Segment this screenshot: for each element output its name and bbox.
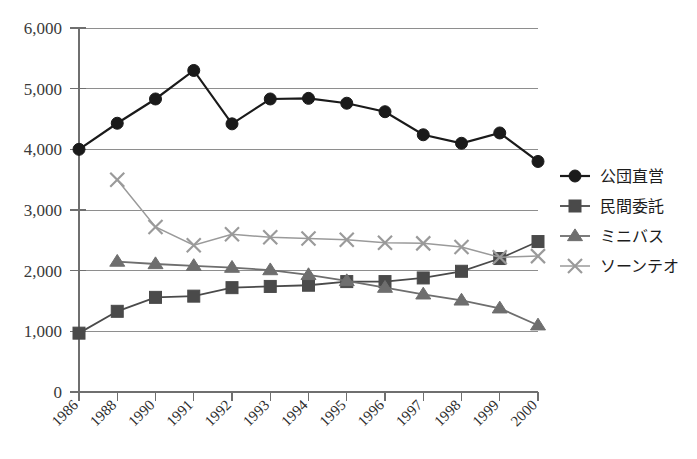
data-point-triangle-marker xyxy=(263,263,278,275)
y-axis-tick-label: 4,000 xyxy=(24,140,62,159)
data-point-triangle-marker xyxy=(148,257,163,269)
series-2 xyxy=(73,236,544,340)
data-point-square-marker xyxy=(111,305,123,317)
data-point-triangle-marker xyxy=(186,259,201,271)
data-point-circle-marker xyxy=(264,93,276,105)
data-point-circle-marker xyxy=(303,92,315,104)
data-point-circle-marker xyxy=(456,137,468,149)
data-point-circle-marker xyxy=(494,127,506,139)
data-point-square-marker xyxy=(569,200,581,212)
data-point-square-marker xyxy=(188,290,200,302)
data-point-circle-marker xyxy=(226,118,238,130)
legend-label: 民間委託 xyxy=(600,197,664,216)
line-chart: 01,0002,0003,0004,0005,0006,000 19861988… xyxy=(0,0,697,459)
x-axis-tick-label: 1990 xyxy=(125,397,158,430)
legend-label: 公団直営 xyxy=(600,167,664,186)
data-point-triangle-marker xyxy=(225,261,240,273)
legend-label: ソーンテオ xyxy=(600,257,679,276)
data-point-square-marker xyxy=(303,279,315,291)
data-point-circle-marker xyxy=(73,143,85,155)
data-point-square-marker xyxy=(532,236,544,248)
data-point-circle-marker xyxy=(150,93,162,105)
x-axis-tick-label: 1995 xyxy=(316,397,349,430)
y-axis-tick-label: 6,000 xyxy=(24,19,62,38)
data-point-triangle-marker xyxy=(568,229,583,241)
legend-item-4[interactable]: ソーンテオ xyxy=(560,257,679,276)
x-axis-tick-label: 1999 xyxy=(469,397,502,430)
legend-item-3[interactable]: ミニバス xyxy=(560,227,664,246)
series-1 xyxy=(73,64,544,167)
x-axis-labels-group: 1986198819901991199219931994199519961997… xyxy=(49,396,541,429)
x-axis-tick-label: 2000 xyxy=(508,397,541,430)
legend-item-1[interactable]: 公団直営 xyxy=(560,167,664,186)
y-axis-tick-label: 0 xyxy=(54,383,63,402)
series-line xyxy=(117,180,538,258)
data-point-x-marker xyxy=(149,220,163,234)
y-axis-tick-label: 3,000 xyxy=(24,201,62,220)
data-point-triangle-marker xyxy=(110,254,125,266)
x-axis-tick-label: 1996 xyxy=(355,396,388,429)
data-point-square-marker xyxy=(264,280,276,292)
x-axis-tick-label: 1993 xyxy=(240,397,273,430)
data-point-x-marker xyxy=(110,173,124,187)
data-point-square-marker xyxy=(417,272,429,284)
x-axis-tick-label: 1992 xyxy=(202,397,235,430)
x-axis-tick-label: 1997 xyxy=(393,396,426,429)
chart-legend: 公団直営民間委託ミニバスソーンテオ xyxy=(560,167,679,276)
data-point-circle-marker xyxy=(341,97,353,109)
data-point-square-marker xyxy=(226,282,238,294)
data-series-group xyxy=(73,64,546,339)
series-line xyxy=(79,70,538,161)
data-point-circle-marker xyxy=(569,170,581,182)
data-point-circle-marker xyxy=(379,106,391,118)
x-axis-tick-label: 1998 xyxy=(431,397,464,430)
legend-label: ミニバス xyxy=(600,227,664,246)
data-point-square-marker xyxy=(456,265,468,277)
y-axis-labels-group: 01,0002,0003,0004,0005,0006,000 xyxy=(24,19,62,402)
data-point-circle-marker xyxy=(188,64,200,76)
x-axis-tick-label: 1994 xyxy=(278,396,311,429)
data-point-x-marker xyxy=(187,238,201,252)
y-axis-tick-label: 1,000 xyxy=(24,322,62,341)
data-point-circle-marker xyxy=(532,155,544,167)
legend-item-2[interactable]: 民間委託 xyxy=(560,197,664,216)
data-point-square-marker xyxy=(150,291,162,303)
y-axis-tick-label: 2,000 xyxy=(24,262,62,281)
x-axis-tick-label: 1991 xyxy=(163,397,196,430)
data-point-circle-marker xyxy=(111,117,123,129)
x-axis-tick-label: 1988 xyxy=(87,397,120,430)
chart-container: 01,0002,0003,0004,0005,0006,000 19861988… xyxy=(0,0,697,459)
data-point-square-marker xyxy=(73,327,85,339)
data-point-circle-marker xyxy=(417,129,429,141)
series-4 xyxy=(110,173,545,265)
data-point-triangle-marker xyxy=(531,318,546,330)
y-axis-tick-label: 5,000 xyxy=(24,80,62,99)
